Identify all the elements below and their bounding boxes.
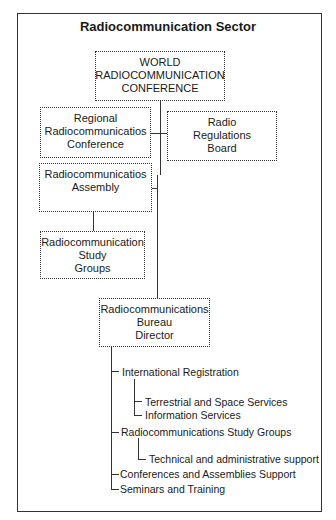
tree-item-conferences-support: Conferences and Assemblies Support [120,468,296,480]
box-text-line: WORLD [140,56,181,69]
box-text-line: Radiocommunication [41,236,144,249]
box-text-line: Board [207,142,236,155]
box-text-line: Bureau [137,316,172,329]
box-world-radiocommunication-conference: WORLD RADIOCOMMUNICATION CONFERENCE [95,51,225,101]
connector-regional-rrb [151,133,167,134]
box-regional-conference: Regional Radiocommunicatios Conference [40,107,151,158]
connector-main-trunk [160,101,161,175]
box-radio-regulations-board: Radio Regulations Board [167,111,277,161]
box-text-line: Radiocommunicatios [44,125,146,138]
box-text-line: Radiocommunicatios [44,168,146,181]
box-text-line: Director [135,329,174,342]
tree-item-information-services: Information Services [145,409,241,421]
box-text-line: Radiocommunications [100,303,208,316]
connector-assembly-studygroups [93,212,94,231]
tree-item-technical-support: Technical and administrative support [149,453,319,465]
box-text-line: Regulations [193,129,251,142]
tree-item-international-registration: International Registration [122,366,239,378]
diagram-title: Radiocommunication Sector [0,19,336,34]
box-text-line: Radio [208,116,237,129]
tree-sub-trunk-1 [134,379,135,415]
tree-item-seminars-training: Seminars and Training [120,483,225,495]
box-text-line: RADIOCOMMUNICATION [95,69,224,82]
tree-branch [134,415,142,416]
box-text-line: Conference [67,138,124,151]
box-text-line: Groups [74,262,110,275]
tree-branch [111,432,119,433]
connector-assembly [152,188,158,189]
tree-item-study-groups: Radiocommunications Study Groups [121,426,291,438]
box-text-line: CONFERENCE [121,82,198,95]
tree-item-terrestrial-space-services: Terrestrial and Space Services [145,396,287,408]
tree-trunk [111,347,112,489]
tree-branch [111,489,119,490]
box-text-line: Study [78,249,106,262]
connector-main-trunk-lower [157,175,158,298]
tree-branch [134,401,142,402]
box-study-groups: Radiocommunication Study Groups [40,231,145,279]
box-text-line: Assembly [72,181,120,194]
tree-branch [111,474,119,475]
box-text-line: Regional [74,112,117,125]
tree-sub-trunk-2 [138,438,139,459]
tree-branch [138,459,146,460]
box-bureau-director: Radiocommunications Bureau Director [99,298,210,347]
tree-branch [111,371,119,372]
box-radiocommunication-assembly: Radiocommunicatios Assembly [39,163,152,212]
